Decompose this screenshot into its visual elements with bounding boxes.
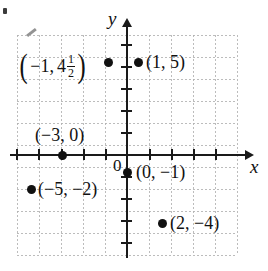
scan-speck <box>3 8 7 14</box>
point-label-minus1-4-and-a-half: ( −1, 4 1 2 ) <box>18 53 87 80</box>
point-label-0-minus1: (0, −1) <box>136 163 185 181</box>
plotted-point-minus1-4-and-a-half <box>104 58 113 67</box>
y-axis-tick <box>121 242 132 244</box>
plotted-point-2-minus4 <box>158 219 167 228</box>
y-axis-tick <box>121 66 132 68</box>
y-axis-tick <box>121 44 132 46</box>
plotted-point-minus3-0 <box>58 151 67 160</box>
y-axis-tick <box>121 220 132 222</box>
x-axis-tick <box>193 149 195 160</box>
point-label-2-minus4: (2, −4) <box>170 214 219 232</box>
y-axis-tick <box>121 132 132 134</box>
label-whole-number: 4 <box>57 57 66 75</box>
x-axis <box>10 154 247 156</box>
x-axis-tick <box>83 149 85 160</box>
y-axis-arrow-icon <box>122 18 132 27</box>
x-axis-tick <box>215 149 217 160</box>
label-fraction: 1 2 <box>67 53 75 79</box>
fraction-numerator: 1 <box>67 53 75 65</box>
coordinate-plane-figure: x y 0 ( −1, 4 1 2 ) (1, 5) (−3, 0 <box>0 0 268 271</box>
y-axis-tick <box>121 88 132 90</box>
point-label-minus5-minus2: (−5, −2) <box>38 180 97 198</box>
plotted-point-0-minus1 <box>123 168 132 177</box>
y-axis-label: y <box>108 8 116 30</box>
x-axis-tick <box>171 149 173 160</box>
label-open-paren: ( <box>20 53 28 80</box>
label-close-paren: ) <box>78 53 86 80</box>
point-label-minus3-0: (−3, 0) <box>35 126 84 144</box>
label-x-value: −1, <box>30 57 54 75</box>
x-axis-tick <box>38 149 40 160</box>
fraction-denominator: 2 <box>67 67 75 79</box>
y-axis-tick <box>121 198 132 200</box>
x-axis-tick <box>149 149 151 160</box>
x-axis-label: x <box>250 156 258 178</box>
x-axis-tick <box>105 149 107 160</box>
y-axis-tick <box>121 110 132 112</box>
origin-label: 0 <box>113 156 122 176</box>
gridline-vertical <box>237 35 238 255</box>
point-label-1-5: (1, 5) <box>146 53 185 71</box>
plotted-point-minus5-minus2 <box>27 185 36 194</box>
y-axis <box>126 26 128 258</box>
plotted-point-1-5 <box>134 58 143 67</box>
x-axis-tick <box>16 149 18 160</box>
